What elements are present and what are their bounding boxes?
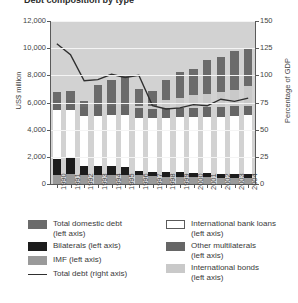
x-axis-tick — [166, 185, 167, 188]
y-axis-right-tick — [256, 48, 259, 49]
y-axis-right-title: Percentage of GDP — [283, 36, 292, 146]
legend-color-swatch — [28, 256, 47, 265]
legend-column-left: Total domestic debt(left axis)Bilaterals… — [28, 219, 163, 283]
legend-item[interactable]: IMF (left axis) — [28, 255, 163, 266]
x-axis-tick — [84, 185, 85, 188]
plot-area — [50, 21, 255, 184]
y-axis-left-tick-label: 0 — [6, 180, 46, 188]
x-axis-tick-label: 2000 — [197, 173, 205, 190]
y-axis-left-tick — [47, 130, 50, 131]
x-axis-tick-label: 1995 — [128, 173, 136, 190]
x-axis-tick — [207, 185, 208, 188]
x-axis-tick-label: 1992 — [87, 173, 95, 190]
y-axis-left-tick-label: 4,000 — [6, 126, 46, 134]
y-axis-right-tick — [256, 157, 259, 158]
y-axis-left-tick-label: 8,000 — [6, 71, 46, 79]
y-axis-left-tick — [47, 21, 50, 22]
legend-item[interactable]: Total domestic debt(left axis) — [28, 219, 163, 238]
chart-legend: Total domestic debt(left axis)Bilaterals… — [0, 219, 298, 303]
x-axis-tick-label: 1991 — [74, 173, 82, 190]
chart-title-cropped: Debt composition by type — [24, 0, 184, 7]
gridline — [50, 103, 255, 104]
x-axis-tick-label: 1997 — [156, 173, 164, 190]
x-axis-tick — [235, 185, 236, 188]
y-axis-right-tick-label: 150 — [260, 17, 290, 25]
legend-color-swatch — [28, 242, 47, 251]
legend-item[interactable]: Other multilaterals(left axis) — [166, 241, 298, 260]
legend-color-swatch — [166, 220, 185, 229]
x-axis-tick-label: 1998 — [169, 173, 177, 190]
gridline — [50, 48, 255, 49]
gridline — [50, 75, 255, 76]
x-axis-tick — [139, 185, 140, 188]
y-axis-right-tick — [256, 130, 259, 131]
gridline — [50, 157, 255, 158]
legend-line-swatch — [28, 274, 47, 275]
x-axis-tick-label: 1999 — [183, 173, 191, 190]
gridline — [50, 21, 255, 22]
x-axis-tick-label: 1990 — [60, 173, 68, 190]
x-axis-tick-label: 1996 — [142, 173, 150, 190]
y-axis-left-tick — [47, 75, 50, 76]
x-axis-tick — [98, 185, 99, 188]
x-axis-tick — [57, 185, 58, 188]
legend-item[interactable]: Bilaterals (left axis) — [28, 241, 163, 252]
legend-label: IMF (left axis) — [53, 255, 163, 265]
x-axis-tick-label: 2003 — [238, 173, 246, 190]
y-axis-left-tick — [47, 48, 50, 49]
x-axis-tick-label: 1994 — [115, 173, 123, 190]
chart-area: 02,0004,0006,0008,00010,00012,0000255075… — [0, 8, 298, 220]
y-axis-right-tick-label: 25 — [260, 153, 290, 161]
legend-label: Total domestic debt(left axis) — [53, 219, 163, 238]
x-axis-tick-label: 2004 — [251, 173, 259, 190]
legend-label: Other multilaterals(left axis) — [191, 241, 298, 260]
legend-item[interactable]: International bank loans(left axis) — [166, 219, 298, 238]
x-axis-tick — [194, 185, 195, 188]
y-axis-right-tick-label: 0 — [260, 180, 290, 188]
y-axis-left-tick-label: 6,000 — [6, 99, 46, 107]
gridline — [50, 130, 255, 131]
x-axis-tick — [112, 185, 113, 188]
x-axis-tick — [180, 185, 181, 188]
y-axis-left-tick — [47, 103, 50, 104]
y-axis-left-tick — [47, 157, 50, 158]
y-axis-right-tick — [256, 75, 259, 76]
x-axis-tick-label: 2001 — [210, 173, 218, 190]
page-title: Debt composition by type — [24, 0, 184, 5]
legend-item[interactable]: International bonds(left axis) — [166, 263, 298, 282]
legend-item[interactable]: Total debt (right axis) — [28, 269, 163, 280]
legend-label: Total debt (right axis) — [53, 269, 163, 279]
y-axis-left-tick — [47, 184, 50, 185]
legend-label: Bilaterals (left axis) — [53, 241, 163, 251]
legend-color-swatch — [166, 264, 185, 273]
x-axis-tick — [71, 185, 72, 188]
line-path — [57, 44, 248, 109]
x-axis-tick — [125, 185, 126, 188]
y-axis-left — [50, 21, 51, 185]
x-axis-tick — [221, 185, 222, 188]
x-axis-tick — [248, 185, 249, 188]
y-axis-left-tick-label: 2,000 — [6, 153, 46, 161]
legend-color-swatch — [28, 220, 47, 229]
y-axis-left-tick-label: 10,000 — [6, 44, 46, 52]
y-axis-left-title: US$ million — [14, 56, 23, 126]
legend-label: International bonds(left axis) — [191, 263, 298, 282]
x-axis-tick — [153, 185, 154, 188]
x-axis-tick-label: 2002 — [224, 173, 232, 190]
chart-screenshot: Debt composition by type 02,0004,0006,00… — [0, 0, 298, 303]
y-axis-right-tick — [256, 103, 259, 104]
x-axis-tick-label: 1993 — [101, 173, 109, 190]
legend-column-right: International bank loans(left axis)Other… — [166, 219, 298, 285]
legend-label: International bank loans(left axis) — [191, 219, 298, 238]
legend-color-swatch — [166, 242, 185, 251]
y-axis-left-tick-label: 12,000 — [6, 17, 46, 25]
y-axis-right-tick — [256, 21, 259, 22]
